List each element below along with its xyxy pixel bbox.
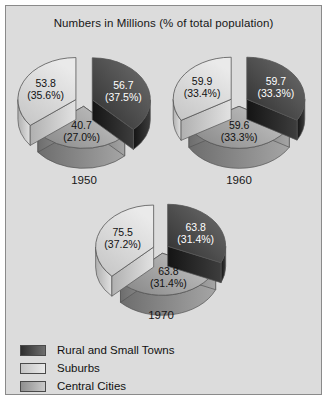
pie-svg-1970 <box>91 191 231 323</box>
pie-chart-1950: 56.7(37.5%)40.7(27.0%)53.8(35.6%)1950 <box>14 40 154 195</box>
legend-swatch-rural <box>20 345 46 356</box>
legend-item-rural: Rural and Small Towns <box>20 342 174 358</box>
pie-svg-1950 <box>14 40 154 180</box>
pie-chart-1960: 59.7(33.3%)59.6(33.3%)59.9(33.4%)1960 <box>169 40 309 195</box>
legend-item-central: Central Cities <box>20 378 174 394</box>
page-title: Numbers in Millions (% of total populati… <box>6 17 321 29</box>
pie-svg-1960 <box>169 40 309 180</box>
pie-chart-1970: 63.8(31.4%)63.8(31.4%)75.5(37.2%)1970 <box>91 191 231 334</box>
legend-label-rural: Rural and Small Towns <box>57 344 174 356</box>
year-label-1970: 1970 <box>91 309 231 321</box>
legend-label-central: Central Cities <box>57 380 126 392</box>
legend-item-suburbs: Suburbs <box>20 360 174 376</box>
legend-swatch-suburbs <box>20 363 46 374</box>
legend: Rural and Small Towns Suburbs Central Ci… <box>20 342 174 396</box>
year-label-1950: 1950 <box>14 174 154 186</box>
legend-label-suburbs: Suburbs <box>57 362 100 374</box>
chart-panel: Numbers in Millions (% of total populati… <box>5 5 322 395</box>
legend-swatch-central <box>20 381 46 392</box>
year-label-1960: 1960 <box>169 174 309 186</box>
